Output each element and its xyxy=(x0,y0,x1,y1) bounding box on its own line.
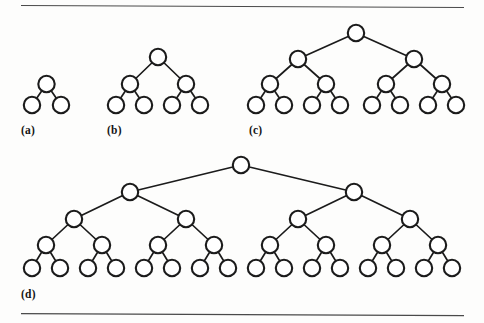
tree-node[interactable] xyxy=(80,260,96,276)
tree-node[interactable] xyxy=(150,237,166,253)
tree-node[interactable] xyxy=(416,260,432,276)
tree-node[interactable] xyxy=(444,260,460,276)
panel-label-d: (d) xyxy=(21,288,36,301)
tree-node[interactable] xyxy=(248,260,264,276)
tree-diagram-canvas: (a)(b)(c)(d) xyxy=(0,0,484,323)
tree-edge xyxy=(241,165,354,192)
tree-node[interactable] xyxy=(388,260,404,276)
tree-node[interactable] xyxy=(233,157,249,173)
tree-node[interactable] xyxy=(332,260,348,276)
tree-node[interactable] xyxy=(136,260,152,276)
tree-node[interactable] xyxy=(206,237,222,253)
tree-node[interactable] xyxy=(248,97,264,113)
tree-node[interactable] xyxy=(220,260,236,276)
tree-edge xyxy=(130,165,241,192)
tree-node[interactable] xyxy=(304,260,320,276)
tree-node[interactable] xyxy=(448,97,464,113)
tree-node[interactable] xyxy=(374,237,390,253)
tree-node[interactable] xyxy=(276,97,292,113)
tree-nodes-c xyxy=(248,25,464,113)
tree-node[interactable] xyxy=(434,76,450,92)
tree-panels-layer: (a)(b)(c)(d) xyxy=(21,25,464,301)
tree-edge xyxy=(74,192,130,219)
tree-node[interactable] xyxy=(276,260,292,276)
tree-node[interactable] xyxy=(136,97,152,113)
bottom-rule xyxy=(21,314,464,316)
tree-node[interactable] xyxy=(402,211,418,227)
tree-node[interactable] xyxy=(178,76,194,92)
tree-edges-c xyxy=(256,33,456,105)
tree-node[interactable] xyxy=(38,76,54,92)
tree-node[interactable] xyxy=(262,237,278,253)
tree-node[interactable] xyxy=(53,97,69,113)
tree-node[interactable] xyxy=(150,49,166,65)
tree-node[interactable] xyxy=(364,97,380,113)
tree-node[interactable] xyxy=(332,97,348,113)
tree-node[interactable] xyxy=(24,260,40,276)
tree-node[interactable] xyxy=(318,76,334,92)
tree-panel-a: (a) xyxy=(21,76,69,137)
tree-nodes-b xyxy=(108,49,208,113)
tree-node[interactable] xyxy=(430,237,446,253)
tree-node[interactable] xyxy=(420,97,436,113)
panel-label-a: (a) xyxy=(21,124,35,137)
tree-node[interactable] xyxy=(122,76,138,92)
tree-node[interactable] xyxy=(262,76,278,92)
tree-node[interactable] xyxy=(38,237,54,253)
tree-node[interactable] xyxy=(318,237,334,253)
tree-node[interactable] xyxy=(52,260,68,276)
tree-node[interactable] xyxy=(290,51,306,67)
tree-node[interactable] xyxy=(192,260,208,276)
tree-edge xyxy=(354,192,410,219)
tree-panel-c: (c) xyxy=(248,25,464,137)
tree-node[interactable] xyxy=(122,184,138,200)
tree-nodes-d xyxy=(24,157,460,276)
tree-edge xyxy=(298,192,354,219)
tree-edge xyxy=(298,33,356,59)
tree-node[interactable] xyxy=(406,51,422,67)
tree-edge xyxy=(130,192,186,219)
tree-nodes-a xyxy=(24,76,69,113)
tree-node[interactable] xyxy=(164,260,180,276)
tree-node[interactable] xyxy=(108,260,124,276)
tree-node[interactable] xyxy=(66,211,82,227)
tree-node[interactable] xyxy=(164,97,180,113)
tree-panel-b: (b) xyxy=(107,49,208,137)
tree-node[interactable] xyxy=(178,211,194,227)
tree-node[interactable] xyxy=(392,97,408,113)
tree-node[interactable] xyxy=(192,97,208,113)
tree-node[interactable] xyxy=(346,184,362,200)
panel-label-b: (b) xyxy=(107,124,122,137)
figure-container: (a)(b)(c)(d) xyxy=(0,0,484,323)
tree-node[interactable] xyxy=(360,260,376,276)
top-rule xyxy=(21,6,464,8)
tree-node[interactable] xyxy=(108,97,124,113)
tree-node[interactable] xyxy=(24,97,40,113)
tree-node[interactable] xyxy=(348,25,364,41)
tree-edges-d xyxy=(32,165,452,268)
tree-node[interactable] xyxy=(378,76,394,92)
tree-node[interactable] xyxy=(304,97,320,113)
panel-label-c: (c) xyxy=(249,124,262,137)
tree-node[interactable] xyxy=(94,237,110,253)
tree-node[interactable] xyxy=(290,211,306,227)
tree-panel-d: (d) xyxy=(21,157,460,301)
tree-edge xyxy=(356,33,414,59)
